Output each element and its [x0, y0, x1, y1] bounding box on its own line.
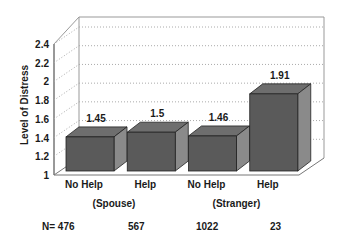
bar: 1.45: [66, 113, 127, 171]
x-group-label: (Spouse): [79, 198, 149, 209]
sample-size-label: 567: [128, 221, 145, 232]
y-tick-label: 2.4: [35, 39, 49, 50]
x-category-label: Help: [246, 179, 290, 190]
y-tick-label: 2: [43, 76, 49, 87]
y-axis-label: Level of Distress: [19, 65, 30, 145]
bar-value-label: 1.45: [86, 113, 106, 124]
x-category-label: No Help: [62, 179, 106, 190]
y-axis-ticks: 11.21.41.61.822.22.4: [35, 39, 49, 181]
bar-value-label: 1.91: [270, 70, 290, 81]
x-group-label: (Stranger): [202, 198, 272, 209]
bar: 1.91: [250, 70, 311, 171]
bar-chart-3d: 11.21.41.61.822.22.4 1.451.51.461.91 Lev…: [0, 0, 340, 247]
x-category-label: Help: [123, 179, 167, 190]
sample-size-label: 1022: [196, 221, 218, 232]
y-tick-label: 1.6: [35, 114, 49, 125]
bar: 1.46: [189, 112, 250, 171]
y-tick-label: 1: [43, 170, 49, 181]
sample-size-label: 23: [270, 221, 281, 232]
bar-value-label: 1.46: [209, 112, 229, 123]
sample-size-label: N= 476: [42, 221, 75, 232]
y-tick-label: 1.2: [35, 151, 49, 162]
y-tick-label: 1.4: [35, 133, 49, 144]
bar-value-label: 1.5: [150, 108, 164, 119]
y-tick-label: 2.2: [35, 58, 49, 69]
y-tick-label: 1.8: [35, 95, 49, 106]
x-category-label: No Help: [185, 179, 229, 190]
bar: 1.5: [127, 108, 188, 171]
bars: 1.451.51.461.91: [66, 70, 311, 171]
